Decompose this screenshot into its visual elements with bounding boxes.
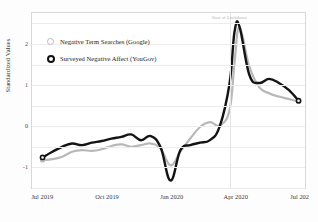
y-axis-tick-label: 0 (12, 122, 28, 129)
x-axis-tick-label: Jul 202 (290, 193, 309, 200)
gridline (32, 85, 305, 86)
chart-legend: Negative Term Searches (Google) Surveyed… (47, 33, 156, 67)
legend-item[interactable]: Surveyed Negative Affect (YouGov) (47, 50, 156, 67)
legend-marker-open-circle-icon (47, 38, 54, 45)
y-axis-title: Standardized Values (4, 11, 11, 121)
x-axis-tick-label: Apr 2020 (224, 193, 248, 200)
legend-item[interactable]: Negative Term Searches (Google) (47, 33, 156, 50)
lockdown-vertical-rule (230, 13, 231, 188)
series-endpoint-marker (296, 99, 300, 103)
chart-container: Start of Lockdown Standardized Values 21… (0, 0, 318, 222)
gridline (32, 147, 305, 148)
gridline (32, 23, 305, 24)
y-axis-tick-label: -1 (12, 163, 28, 170)
y-axis-tick-label: 2 (12, 40, 28, 47)
legend-item-label: Surveyed Negative Affect (YouGov) (60, 55, 156, 62)
x-axis-tick-label: Oct 2019 (95, 193, 119, 200)
y-axis-tick-label: 1 (12, 81, 28, 88)
gridline (32, 188, 305, 189)
gridline (32, 126, 305, 127)
legend-item-label: Negative Term Searches (Google) (60, 38, 150, 45)
gridline (32, 167, 305, 168)
x-axis-tick-label: Jan 2020 (160, 193, 183, 200)
gridline (32, 106, 305, 107)
legend-marker-ring-icon (47, 55, 55, 63)
series-endpoint-marker (40, 155, 44, 159)
lockdown-annotation-label: Start of Lockdown (212, 15, 247, 20)
x-axis-tick-label: Jul 2019 (31, 193, 53, 200)
